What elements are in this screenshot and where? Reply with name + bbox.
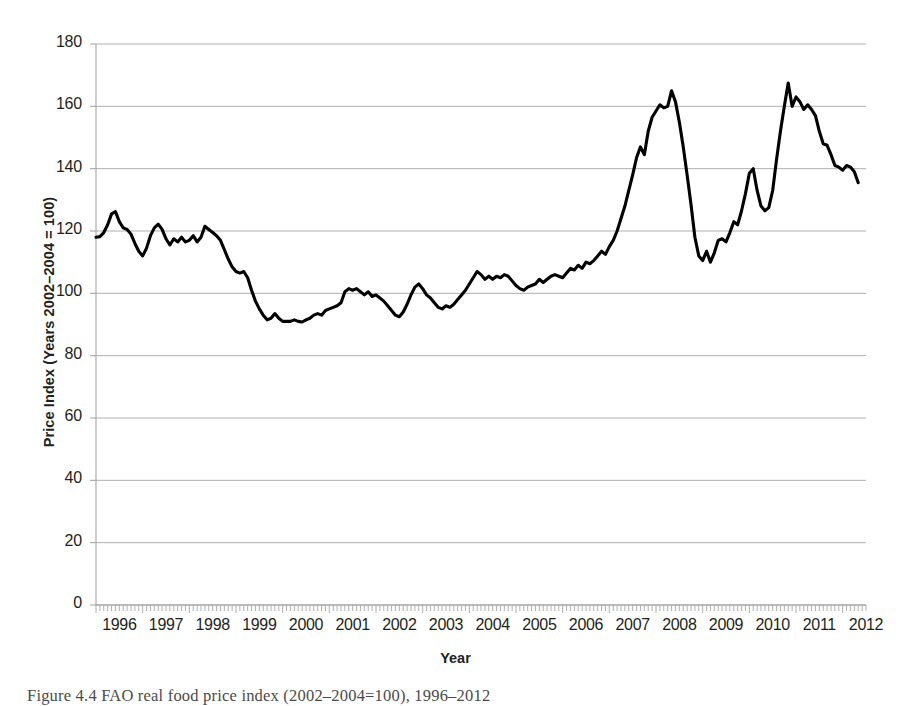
x-tick-label: 2012 [839, 616, 893, 634]
line-chart-svg [0, 0, 909, 640]
figure-container: Price Index (Years 2002–2004 = 100) 0204… [0, 0, 909, 706]
y-tick-label: 160 [26, 95, 82, 113]
y-tick-label: 20 [26, 532, 82, 550]
y-tick-label: 80 [26, 345, 82, 363]
y-tick-label: 40 [26, 469, 82, 487]
x-axis-title-label: Year [438, 650, 471, 666]
y-tick-label: 140 [26, 158, 82, 176]
x-axis-title: Year [0, 650, 909, 666]
y-tick-label: 180 [26, 33, 82, 51]
y-tick-label: 100 [26, 282, 82, 300]
chart-plot-area: Price Index (Years 2002–2004 = 100) 0204… [0, 0, 909, 640]
y-tick-label: 60 [26, 407, 82, 425]
data-series-line-0 [96, 83, 858, 322]
y-axis-title: Price Index (Years 2002–2004 = 100) [41, 162, 57, 482]
y-tick-label: 0 [26, 594, 82, 612]
figure-caption: Figure 4.4 FAO real food price index (20… [27, 686, 887, 706]
y-tick-label: 120 [26, 220, 82, 238]
